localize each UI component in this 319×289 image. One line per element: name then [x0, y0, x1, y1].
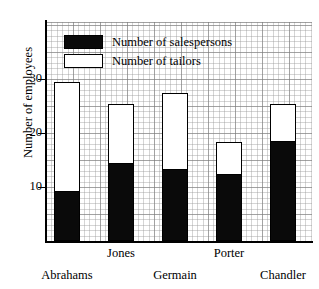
x-axis-line: [45, 241, 313, 243]
bar-segment-tailors: [162, 93, 188, 170]
bar-chandler: [270, 104, 296, 241]
bar-segment-salespersons: [216, 175, 242, 241]
bar-porter: [216, 142, 242, 241]
bar-jones: [108, 104, 134, 241]
bar-segment-salespersons: [54, 192, 80, 241]
bar-segment-salespersons: [270, 142, 296, 241]
bar-germain: [162, 93, 188, 241]
legend-label-salespersons: Number of salespersons: [112, 35, 232, 50]
legend-swatch-icon-salespersons: [64, 35, 103, 49]
bar-segment-tailors: [54, 82, 80, 192]
x-label-jones: Jones: [107, 246, 135, 261]
x-label-chandler: Chandler: [260, 268, 306, 283]
legend-label-tailors: Number of tailors: [112, 54, 201, 69]
bar-segment-salespersons: [108, 164, 134, 241]
chart-legend: Number of salespersons Number of tailors: [64, 33, 232, 71]
legend-swatch-icon-tailors: [64, 54, 103, 68]
y-axis-ticks: 30 20 10: [14, 0, 42, 289]
x-label-porter: Porter: [214, 246, 245, 261]
bar-abrahams: [54, 82, 80, 241]
bar-segment-salespersons: [162, 170, 188, 241]
chart-screenshot: Number of employees 30 20 10: [0, 0, 319, 289]
x-label-germain: Germain: [153, 268, 197, 283]
bar-segment-tailors: [108, 104, 134, 164]
legend-item-salespersons: Number of salespersons: [64, 33, 232, 51]
legend-item-tailors: Number of tailors: [64, 52, 232, 70]
x-label-abrahams: Abrahams: [41, 268, 92, 283]
y-axis-line: [45, 20, 47, 243]
bar-segment-tailors: [270, 104, 296, 142]
bar-segment-tailors: [216, 142, 242, 175]
